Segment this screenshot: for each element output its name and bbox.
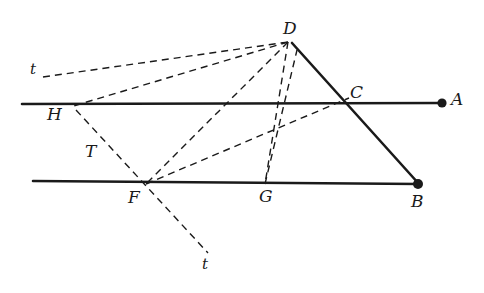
dash-F-to-C [146, 98, 349, 184]
label-t-bottom: t [202, 257, 208, 272]
line-H-A [22, 103, 443, 104]
label-B: B [411, 193, 424, 210]
dash-t-top-to-D [43, 42, 288, 77]
label-F: F [128, 189, 140, 206]
dash-G-to-D-branch [265, 50, 297, 184]
label-H: H [47, 106, 62, 123]
endpoint-dots [413, 98, 447, 189]
dash-D-to-H [70, 42, 288, 107]
dash-D-to-G [265, 42, 288, 184]
label-A: A [451, 91, 463, 108]
point-A-dot [437, 98, 446, 107]
label-t-top: t [30, 62, 36, 77]
geometry-figure: D t C A H T F G B t [0, 0, 484, 293]
label-T: T [85, 143, 96, 160]
solid-lines [22, 43, 443, 184]
label-G: G [259, 188, 273, 205]
point-B-dot [413, 179, 423, 189]
line-D-B [292, 43, 419, 184]
figure-canvas [0, 0, 484, 293]
label-C: C [350, 84, 363, 101]
label-D: D [283, 20, 297, 37]
line-F-B [33, 181, 419, 184]
